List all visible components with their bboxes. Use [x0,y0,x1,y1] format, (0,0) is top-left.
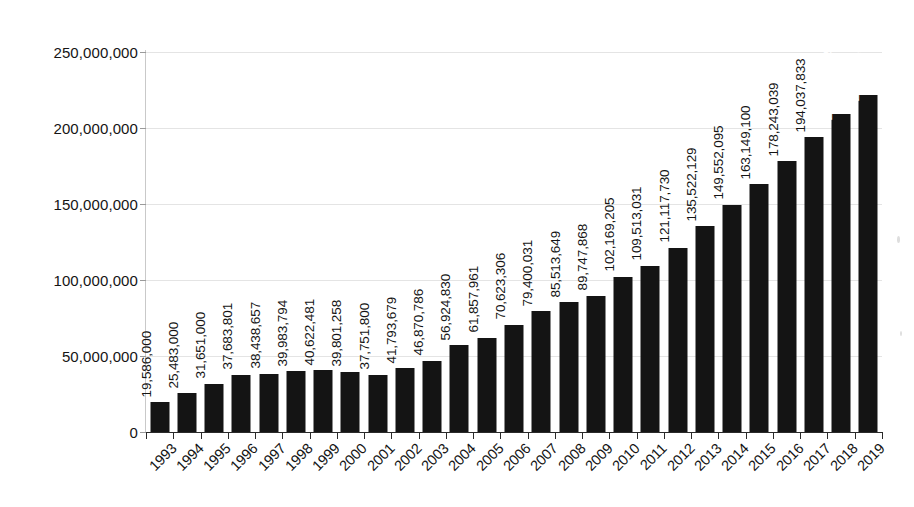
x-axis-tick-label: 2007 [528,441,561,474]
x-axis-tick-labels: 1993199419951996199719981999200020012002… [146,441,882,501]
bar[interactable] [859,95,878,432]
y-axis-tick-mark [140,432,146,433]
bar-chart: 050,000,000100,000,000150,000,000200,000… [0,0,914,507]
bar-value-label: 19,586,000 [139,331,153,398]
bar[interactable] [832,114,851,432]
bar[interactable] [450,345,469,432]
bar-slot: 56,924,830 [446,52,473,432]
bar[interactable] [586,296,605,432]
x-axis-tick-mark [201,432,202,439]
y-axis-tick-label: 150,000,000 [53,196,138,213]
x-axis-tick-label: 2004 [446,441,479,474]
x-axis-tick-label: 2008 [555,441,588,474]
bar[interactable] [668,248,687,432]
bar-value-label: 38,438,657 [248,302,262,369]
bar-value-label: 37,683,801 [221,303,235,370]
bar[interactable] [723,205,742,432]
x-axis-tick-label: 2010 [610,441,643,474]
x-axis-tick-label: 2011 [638,441,670,473]
bar[interactable] [150,402,169,432]
bar-slot: 46,870,786 [419,52,446,432]
x-axis-tick-label: 2001 [364,441,397,474]
x-axis-tick-label: 1993 [146,441,179,474]
x-axis-tick-mark [391,432,392,439]
bar[interactable] [423,361,442,432]
bar[interactable] [777,161,796,432]
y-axis-tick-label: 200,000,000 [53,120,138,137]
x-axis-tick-mark [282,432,283,439]
bar-value-label: 46,870,786 [412,289,426,356]
bar-value-label: 121,117,730 [657,170,671,243]
bar[interactable] [532,311,551,432]
bar-value-label: 221,656,505 [848,27,862,101]
x-axis-tick-mark [882,432,883,439]
bar-slot: 40,622,481 [310,52,337,432]
x-axis-tick-mark [337,432,338,439]
x-axis-tick-mark [419,432,420,439]
x-axis-tick-mark [609,432,610,439]
x-axis-tick-mark [228,432,229,439]
y-axis-tick-labels: 050,000,000100,000,000150,000,000200,000… [0,0,138,507]
x-axis-tick-mark [746,432,747,439]
x-axis-tick-label: 2012 [664,441,697,474]
scan-artifact [897,236,900,243]
bar-value-label: 40,622,481 [303,299,317,366]
bar-value-label: 102,169,205 [603,198,617,272]
bar[interactable] [314,370,333,432]
x-axis-tick-label: 2003 [419,441,452,474]
bar-slot: 31,651,000 [201,52,228,432]
x-axis-tick-mark [173,432,174,439]
bar[interactable] [504,325,523,432]
scan-artifact [900,331,902,336]
bar-slot: 208,904,179 [827,52,854,432]
bar[interactable] [232,375,251,432]
bar[interactable] [341,372,360,432]
x-axis-tick-mark [255,432,256,439]
bar[interactable] [614,277,633,432]
x-axis-tick-mark [446,432,447,439]
x-axis-tick-label: 2006 [501,441,534,474]
y-axis-tick-mark [140,356,146,357]
bar-value-label: 149,552,095 [712,126,726,200]
bar[interactable] [286,371,305,432]
x-axis-tick-mark [855,432,856,439]
x-axis-tick-mark [310,432,311,439]
bar-slot: 39,801,258 [337,52,364,432]
bar[interactable] [205,384,224,432]
bar-value-label: 31,651,000 [194,312,208,379]
bar-value-label: 163,149,100 [739,105,753,179]
bar-slot: 41,793,679 [391,52,418,432]
x-axis-tick-label: 2002 [392,441,425,474]
x-axis-tick-label: 2017 [801,441,834,474]
bar-slot: 135,522,129 [691,52,718,432]
x-axis-tick-mark [664,432,665,439]
x-axis-tick-label: 2013 [692,441,725,474]
bar[interactable] [177,393,196,432]
bar[interactable] [395,368,414,432]
y-axis-tick-label: 100,000,000 [53,272,138,289]
x-axis-tick-label: 1995 [201,441,234,474]
bar[interactable] [259,374,278,432]
x-axis-tick-mark [555,432,556,439]
y-axis-tick-mark [140,128,146,129]
bar-value-label: 208,904,179 [821,46,835,120]
x-axis-tick-label: 2005 [473,441,506,474]
bar-slot: 38,438,657 [255,52,282,432]
bar-slot: 61,857,961 [473,52,500,432]
bar-value-label: 135,522,129 [684,147,698,221]
x-axis-tick-label: 2018 [828,441,861,474]
bar[interactable] [559,302,578,432]
bar-value-label: 89,747,868 [575,224,589,291]
bar[interactable] [750,184,769,432]
y-axis-tick-mark [140,52,146,53]
x-axis-tick-label: 2019 [855,441,888,474]
bar[interactable] [695,226,714,432]
bar-slot: 37,751,800 [364,52,391,432]
x-axis-tick-label: 1994 [174,441,207,474]
bar[interactable] [804,137,823,432]
bar[interactable] [477,338,496,432]
x-axis-tick-mark [718,432,719,439]
bar[interactable] [368,375,387,432]
x-axis-tick-label: 2015 [746,441,779,474]
bar[interactable] [641,266,660,432]
